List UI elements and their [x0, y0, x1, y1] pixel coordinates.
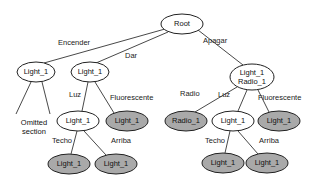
node-label: Light_1 — [211, 158, 236, 167]
node-n_dar_techo: Light_1 — [48, 154, 90, 174]
omitted-section-note: section — [22, 127, 46, 136]
node-n_apa_luz: Light_1 — [212, 111, 254, 131]
node-label: Light_1 — [24, 67, 49, 76]
edge-n_enc-to-omitted — [16, 82, 31, 114]
node-n_apa_techo: Light_1 — [202, 153, 244, 173]
edge-label: Luz — [69, 90, 81, 99]
edge-label: Apagar — [203, 36, 228, 45]
edge-label: Luz — [218, 90, 230, 99]
node-n_enc: Light_1 — [17, 62, 55, 82]
annotations-layer: Omittedsection — [21, 118, 47, 136]
edge-label: Arriba — [259, 136, 280, 145]
edge-label: Arriba — [111, 136, 132, 145]
node-n_dar_flu: Light_1 — [106, 111, 148, 131]
node-label: Light_1 — [78, 67, 103, 76]
edge-label: Radio — [180, 89, 200, 98]
node-n_apa_flu: Light_1 — [258, 111, 300, 131]
node-n_apa_arriba: Light_1 — [246, 153, 288, 173]
edge-n_apa-to-n_apa_luz — [238, 90, 247, 111]
node-label: Light_1 — [255, 158, 280, 167]
node-label: Light_1 — [57, 159, 82, 168]
node-label: Light_1 — [267, 116, 292, 125]
node-n_dar_luz: Light_1 — [57, 111, 99, 131]
edge-n_apa_luz-to-n_apa_techo — [225, 131, 230, 153]
node-n_dar_arriba: Light_1 — [95, 154, 137, 174]
node-label: Light_1 — [104, 159, 129, 168]
edge-n_apa-to-n_apa_radio — [195, 87, 237, 112]
node-n_apa_radio: Radio_1 — [165, 111, 207, 131]
node-root: Root — [161, 14, 203, 34]
node-label: Light_1 — [66, 116, 91, 125]
edge-n_dar-to-n_dar_luz — [82, 82, 88, 111]
tree-diagram: EncenderDarApagarLuzFluorescenteTechoArr… — [0, 0, 313, 184]
node-label: Light_1 — [221, 116, 246, 125]
edge-label: Encender — [58, 38, 91, 47]
node-label: Radio_1 — [238, 77, 266, 86]
edge-label: Techo — [52, 136, 72, 145]
edge-label: Techo — [205, 136, 225, 145]
edge-n_dar_luz-to-n_dar_arriba — [84, 131, 106, 155]
node-n_dar: Light_1 — [71, 62, 109, 82]
node-n_apa: Light_1Radio_1 — [230, 64, 274, 90]
edge-label: Fluorescente — [110, 93, 153, 102]
edge-label: Fluorescente — [258, 93, 301, 102]
edge-n_enc-to-omitted — [42, 82, 50, 114]
omitted-section-note: Omitted — [21, 118, 47, 127]
edge-label: Dar — [125, 51, 138, 60]
node-label: Root — [174, 19, 191, 28]
node-label: Radio_1 — [172, 116, 200, 125]
edge-n_apa_luz-to-n_apa_arriba — [238, 131, 258, 154]
node-label: Light_1 — [115, 116, 140, 125]
